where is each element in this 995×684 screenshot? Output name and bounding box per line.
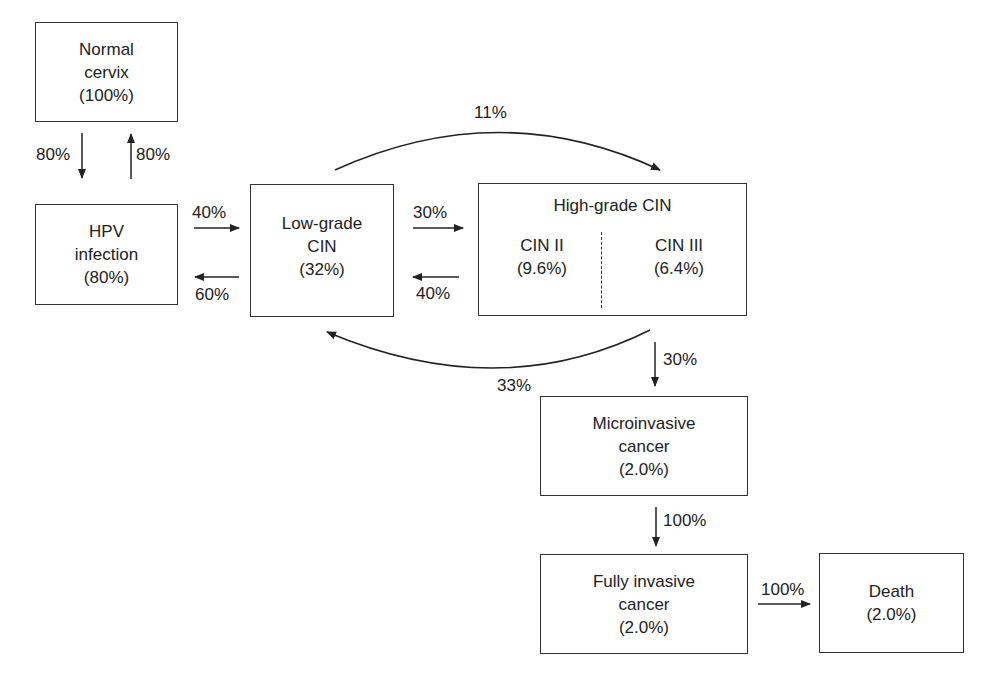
node-death: Death (2.0%) <box>819 553 964 653</box>
edge-label-hpv-to-low: 40% <box>192 203 226 223</box>
edge-label-low-to-high-arc: 11% <box>474 103 507 123</box>
edge-label-high-to-low: 40% <box>416 284 450 304</box>
subnode-cin-ii: CIN II (9.6%) <box>497 234 587 280</box>
node-label: Death <box>869 580 914 603</box>
node-label: Low-grade <box>282 212 362 235</box>
node-normal-cervix: Normal cervix (100%) <box>35 22 178 122</box>
edge-label-low-to-hpv: 60% <box>195 285 229 305</box>
node-high-grade-cin: High-grade CIN CIN II (9.6%) CIN III (6.… <box>478 183 747 316</box>
node-label: Normal <box>79 38 134 61</box>
dashed-divider <box>601 232 602 308</box>
node-value: (32%) <box>299 258 344 281</box>
edge-label-micro-to-fully: 100% <box>663 511 706 531</box>
subnode-label: CIN II <box>520 234 563 257</box>
node-value: (2.0%) <box>866 603 916 626</box>
edge-label-normal-to-hpv: 80% <box>36 145 70 165</box>
node-hpv-infection: HPV infection (80%) <box>35 204 178 305</box>
node-microinvasive-cancer: Microinvasive cancer (2.0%) <box>540 396 748 496</box>
subnode-value: (6.4%) <box>654 257 704 280</box>
node-label: Fully invasive <box>593 570 695 593</box>
node-label: cancer <box>618 435 669 458</box>
edge-label-high-to-low-arc: 33% <box>497 376 531 396</box>
node-value: (2.0%) <box>619 616 669 639</box>
node-value: (100%) <box>79 84 134 107</box>
node-title: High-grade CIN <box>553 194 671 217</box>
node-label: Microinvasive <box>593 412 696 435</box>
edge-label-low-to-high: 30% <box>413 203 447 223</box>
node-value: (80%) <box>84 266 129 289</box>
subnode-cin-iii: CIN III (6.4%) <box>629 234 729 280</box>
subnode-label: CIN III <box>655 234 703 257</box>
arrow-high-to-low-arc <box>327 330 650 368</box>
node-label: cervix <box>84 61 128 84</box>
edge-label-fully-to-death: 100% <box>761 580 804 600</box>
node-label: cancer <box>618 593 669 616</box>
node-low-grade-cin: Low-grade CIN (32%) <box>250 184 394 317</box>
node-label: HPV <box>89 220 124 243</box>
node-label: CIN <box>307 235 336 258</box>
edge-label-hpv-to-normal: 80% <box>136 145 170 165</box>
arrow-low-to-high-arc <box>335 133 660 171</box>
subnode-value: (9.6%) <box>517 257 567 280</box>
node-label: infection <box>75 243 138 266</box>
edge-label-high-to-micro: 30% <box>663 350 697 370</box>
node-value: (2.0%) <box>619 458 669 481</box>
node-fully-invasive-cancer: Fully invasive cancer (2.0%) <box>540 554 748 654</box>
